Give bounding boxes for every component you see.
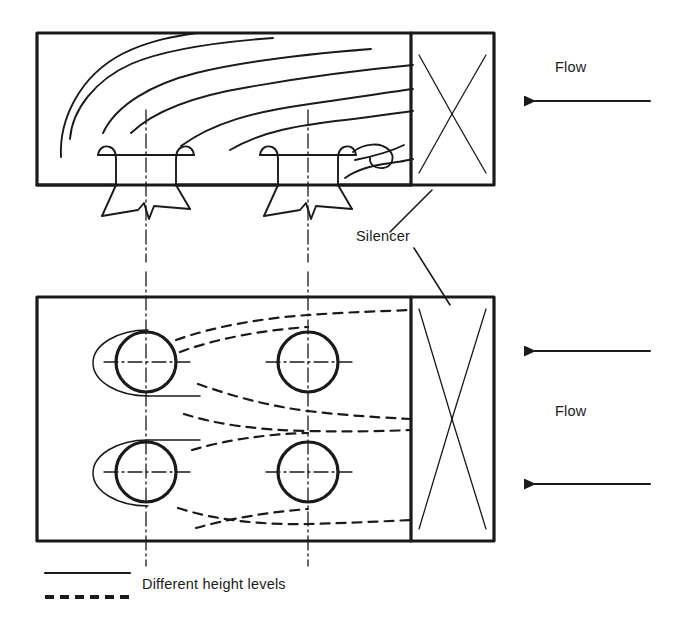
bottom-enclosure-outline bbox=[37, 297, 494, 541]
flow-label-bottom: Flow bbox=[555, 403, 586, 419]
diagram-canvas: Flow Flow Silencer Different height leve… bbox=[0, 0, 680, 636]
silencer-leader-top bbox=[390, 190, 432, 232]
airflow-schematic-svg bbox=[0, 0, 680, 636]
flow-arrows bbox=[535, 101, 650, 484]
legend-caption: Different height levels bbox=[142, 576, 286, 592]
top-view-group bbox=[37, 33, 494, 262]
bottom-view-group bbox=[37, 272, 494, 566]
top-streamlines bbox=[61, 33, 413, 157]
legend-keys bbox=[45, 573, 130, 597]
top-recirculation-swirl bbox=[345, 145, 413, 178]
bottom-streamlines-dashed bbox=[176, 310, 411, 528]
silencer-leader-lines bbox=[390, 190, 450, 305]
flow-label-top: Flow bbox=[555, 59, 586, 75]
silencer-label: Silencer bbox=[356, 228, 410, 244]
top-silencer-pattern bbox=[419, 55, 486, 173]
bottom-centerlines bbox=[104, 272, 352, 566]
bottom-silencer-pattern bbox=[419, 309, 486, 529]
bottom-fans bbox=[116, 332, 338, 502]
